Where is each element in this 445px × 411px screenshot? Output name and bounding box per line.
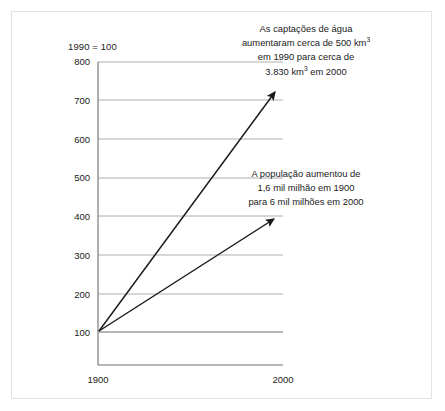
- water-annotation-line-2: aumentaram cerca de 500 km3: [223, 36, 389, 50]
- water-annotation-line-4-post: em 2000: [308, 66, 347, 77]
- y-tick-label-500: 500: [60, 173, 90, 183]
- x-tick-label-1900: 1900: [78, 375, 118, 385]
- water-annotation-line-4: 3.830 km3 em 2000: [223, 65, 389, 79]
- population-annotation-line-2: 1,6 mil milhão em 1900: [223, 181, 389, 195]
- y-tick-label-700: 700: [60, 96, 90, 106]
- water-annotation-line-4-pre: 3.830 km: [265, 66, 304, 77]
- y-tick-label-600: 600: [60, 135, 90, 145]
- water-withdrawals-annotation: As captações de água aumentaram cerca de…: [223, 22, 389, 79]
- y-tick-label-300: 300: [60, 251, 90, 261]
- y-tick-label-400: 400: [60, 212, 90, 222]
- water-annotation-line-3: em 1990 para cerca de: [223, 50, 389, 64]
- population-annotation-line-1: A população aumentou de: [223, 167, 389, 181]
- index-base-note: 1990 = 100: [68, 41, 117, 52]
- water-withdrawals-arrow: [99, 92, 275, 331]
- x-tick-label-2000: 2000: [263, 375, 303, 385]
- water-annotation-line-2-text: aumentaram cerca de 500 km: [242, 37, 367, 48]
- water-annotation-line-1: As captações de água: [223, 22, 389, 36]
- y-tick-label-200: 200: [60, 290, 90, 300]
- population-annotation-line-3: para 6 mil milhões em 2000: [223, 195, 389, 209]
- y-tick-label-100: 100: [60, 328, 90, 338]
- water-population-index-chart: 1990 = 100 800 700 600 500 400 300 200 1…: [0, 0, 445, 411]
- y-tick-label-800: 800: [60, 57, 90, 67]
- cubic-superscript-icon: 3: [366, 36, 370, 43]
- population-arrow: [99, 219, 274, 331]
- population-annotation: A população aumentou de 1,6 mil milhão e…: [223, 167, 389, 210]
